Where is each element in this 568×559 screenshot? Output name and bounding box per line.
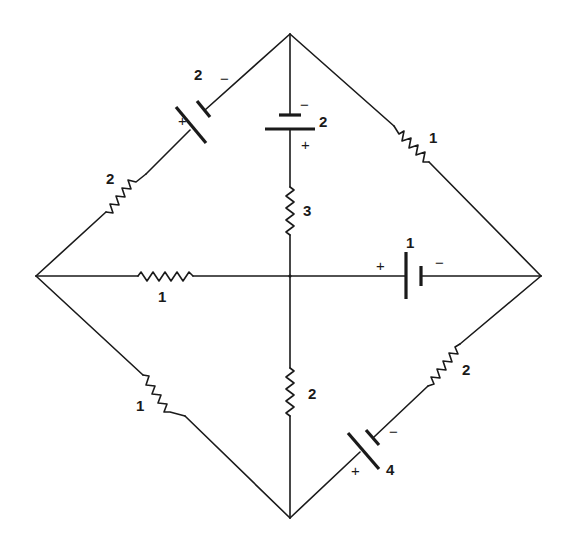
resistor-value-label: 3 [303,202,311,219]
wire [429,162,541,276]
wire [205,34,290,110]
battery-short-plate [197,101,210,117]
battery-value-label: 2 [194,66,202,83]
battery-value-label: 2 [319,113,327,130]
battery-plus-sign: + [376,257,385,274]
resistor-value-label: 2 [106,170,114,187]
resistor-top-right [394,126,429,162]
battery-plus-sign: + [301,136,310,153]
resistor-center-bottom [286,368,294,416]
branch-left-bottom: 1 [36,276,290,518]
battery-minus-sign: − [220,70,229,87]
wire [146,130,190,174]
resistor-left-center [138,272,193,281]
wire [460,276,541,344]
resistor-top-center [286,187,294,235]
wire [36,212,106,276]
battery-minus-sign: − [389,423,398,440]
branch-top-right: 1 [290,34,541,276]
junction-center [288,274,291,277]
resistor-bottom-right [428,344,460,386]
branch-center-right: 1 + − [290,234,541,299]
battery-short-plate [366,430,379,445]
branch-left-top: 2 − + 2 [36,34,290,276]
wire [374,386,428,437]
wire [290,452,360,518]
battery-value-label: 1 [406,234,414,251]
wire [36,276,143,375]
battery-plus-sign: + [178,112,187,129]
resistor-left-bottom [143,375,185,416]
resistor-value-label: 2 [308,385,316,402]
resistor-value-label: 1 [429,129,437,146]
resistor-value-label: 1 [136,397,144,414]
battery-minus-sign: − [435,254,444,271]
resistor-value-label: 1 [158,288,166,305]
branch-bottom-right: 2 4 − + [290,276,541,518]
branch-top-center: − 2 + 3 [265,34,327,276]
battery-minus-sign: − [300,96,309,113]
branch-center-bottom: 2 [286,276,316,518]
branch-left-center: 1 [36,272,290,305]
battery-value-label: 4 [386,461,395,478]
circuit-diagram: 2 − + 2 − 2 + 3 1 1 1 + − [0,0,568,559]
resistor-value-label: 2 [462,361,470,378]
wire [185,416,290,518]
battery-plus-sign: + [351,462,360,479]
